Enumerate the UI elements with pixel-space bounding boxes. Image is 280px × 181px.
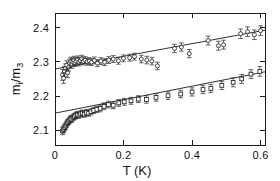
marker-square [117, 101, 121, 105]
marker-circle [173, 46, 177, 50]
marker-circle [150, 59, 154, 63]
marker-circle [122, 56, 126, 60]
marker-circle [246, 30, 250, 34]
marker-square [107, 103, 111, 107]
x-tick-label: 0.4 [184, 149, 200, 161]
data-point [139, 55, 144, 63]
data-point [219, 81, 224, 89]
data-point [144, 96, 149, 104]
data-point [238, 29, 243, 39]
x-tick-label: 0.6 [253, 149, 269, 161]
x-axis-title: T (K) [123, 163, 152, 178]
data-point [166, 92, 171, 100]
y-axis-denominator: m [8, 68, 23, 79]
marker-circle [62, 76, 66, 80]
marker-circle [239, 32, 243, 36]
marker-circle [103, 60, 107, 64]
x-tick-label: 0 [52, 149, 58, 161]
upper-series-circles [60, 26, 263, 84]
marker-square [249, 72, 253, 76]
marker-circle [216, 44, 220, 48]
data-point [208, 84, 213, 92]
marker-circle [179, 45, 183, 49]
data-point [178, 90, 183, 98]
data-point [201, 85, 206, 93]
data-series [60, 26, 263, 135]
marker-circle [111, 57, 115, 61]
marker-square [179, 92, 183, 96]
y-tick-label: 2.2 [33, 90, 49, 102]
marker-circle [139, 57, 143, 61]
marker-square [145, 98, 149, 102]
marker-circle [259, 29, 263, 33]
y-axis-title-text: mi/m3 [8, 63, 25, 95]
y-axis-numerator: m [8, 84, 23, 95]
marker-square [166, 94, 170, 98]
data-point [245, 27, 250, 37]
marker-square [122, 100, 126, 104]
data-point [116, 57, 121, 64]
y-axis-title: mi/m3 [8, 63, 25, 95]
plot-frame [55, 13, 265, 145]
data-point [111, 102, 116, 109]
marker-square [231, 80, 235, 84]
scatter-plot: 00.20.40.6 2.12.22.32.4 T (K) mi/m3 [0, 0, 280, 181]
data-point [187, 49, 192, 57]
data-point [249, 70, 254, 79]
marker-square [129, 99, 133, 103]
data-point [216, 41, 221, 50]
marker-square [220, 84, 224, 88]
marker-square [102, 104, 106, 108]
data-point [155, 62, 160, 70]
marker-circle [222, 43, 226, 47]
marker-square [136, 97, 140, 101]
fit-lines [55, 30, 265, 113]
data-point [179, 43, 184, 51]
marker-circle [206, 39, 210, 43]
x-tick-label: 0.2 [116, 149, 132, 161]
y-tick-label: 2.4 [33, 22, 49, 34]
marker-circle [107, 58, 111, 62]
data-point [231, 78, 236, 87]
y-axis-denominator-subscript: 3 [15, 63, 25, 68]
marker-circle [116, 59, 120, 63]
y-tick-label: 2.1 [33, 124, 49, 136]
marker-circle [187, 52, 191, 56]
x-axis-title-text: T (K) [123, 163, 152, 178]
data-point [206, 36, 211, 45]
data-point [150, 57, 155, 65]
data-point [172, 44, 177, 52]
marker-circle [252, 33, 256, 37]
marker-circle [155, 64, 159, 68]
marker-square [201, 88, 205, 92]
figure-root: 00.20.40.6 2.12.22.32.4 T (K) mi/m3 [0, 0, 280, 181]
data-point [257, 67, 262, 77]
marker-square [190, 90, 194, 94]
data-point [144, 56, 149, 64]
marker-square [209, 87, 213, 91]
marker-square [98, 106, 102, 110]
marker-square [111, 103, 115, 107]
lower-series-squares [60, 67, 262, 135]
data-point [111, 56, 116, 63]
marker-circle [132, 55, 136, 59]
marker-square [154, 96, 158, 100]
marker-circle [128, 56, 132, 60]
data-point [106, 57, 111, 64]
marker-square [240, 77, 244, 81]
data-point [154, 94, 159, 102]
marker-square [258, 69, 262, 73]
data-point [190, 88, 195, 96]
marker-circle [145, 58, 149, 62]
data-point [221, 40, 226, 49]
y-tick-label: 2.3 [33, 56, 49, 68]
